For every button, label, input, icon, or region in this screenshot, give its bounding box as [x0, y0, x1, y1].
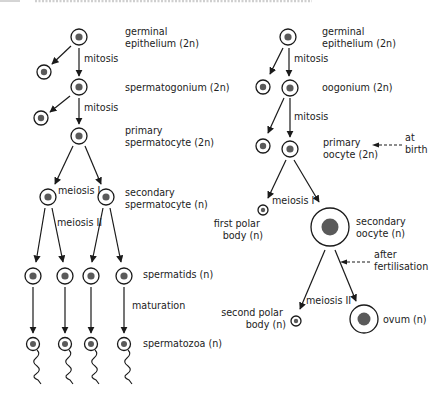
label-germinal-epithelium-male: germinal epithelium (2n) [125, 26, 199, 49]
label-after-fertilisation: after fertilisation [374, 249, 428, 272]
cell-daughter-female-1 [256, 80, 270, 94]
label-first-polar-body: first polar body (n) [214, 218, 263, 241]
label-germinal-epithelium-female: germinal epithelium (2n) [322, 26, 396, 49]
cell-spermatid-3 [83, 268, 99, 284]
spermatozoon-4 [118, 338, 133, 385]
cell-daughter-male-2 [34, 111, 48, 125]
label-spermatogonium: spermatogonium (2n) [125, 82, 229, 93]
gametogenesis-diagram: mitosis mitosis meiosis I meiosis II mat… [0, 0, 445, 403]
cell-spermatid-4 [116, 268, 132, 284]
process-maturation: maturation [132, 300, 185, 311]
process-meiosis-1-female: meiosis I [272, 195, 314, 206]
label-spermatozoa: spermatozoa (n) [143, 338, 222, 349]
process-meiosis-2-female: meiosis II [306, 295, 351, 306]
cell-oogonium [282, 80, 298, 96]
spermatozoon-2 [59, 338, 74, 385]
process-mitosis-female-2: mitosis [294, 111, 328, 122]
label-primary-spermatocyte: primary spermatocyte (2n) [125, 125, 214, 148]
label-spermatids: spermatids (n) [143, 269, 213, 280]
process-meiosis-2-male: meiosis II [57, 217, 102, 228]
label-at-birth: at birth [405, 132, 428, 155]
cell-daughter-female-2 [256, 139, 270, 153]
spermatozoon-3 [85, 338, 100, 385]
cell-first-polar-body [258, 205, 268, 215]
cell-secondary-spermatocyte-right [98, 189, 114, 205]
label-ovum: ovum (n) [383, 314, 427, 325]
process-mitosis-male-2: mitosis [84, 102, 118, 113]
label-second-polar-body: second polar body (n) [221, 307, 286, 330]
label-secondary-oocyte: secondary oocyte (n) [356, 216, 409, 239]
after-fertilisation-pointer [340, 260, 370, 265]
spermatozoon-1 [27, 338, 42, 385]
spermatogenesis-pathway: mitosis mitosis meiosis I meiosis II mat… [25, 26, 229, 384]
cell-daughter-male-1 [37, 65, 51, 79]
cell-germinal-epithelium-female [280, 29, 296, 45]
cell-secondary-spermatocyte-left [40, 189, 56, 205]
cell-second-polar-body [291, 316, 301, 326]
label-primary-oocyte: primary oocyte (2n) [323, 137, 378, 160]
process-mitosis-male-1: mitosis [84, 53, 118, 64]
at-birth-pointer [372, 143, 402, 148]
cell-germinal-epithelium-male [71, 29, 87, 45]
label-secondary-spermatocyte: secondary spermatocyte (n) [125, 187, 208, 210]
oogenesis-pathway: mitosis mitosis meiosis I meiosis II ger… [214, 26, 429, 333]
process-mitosis-female-1: mitosis [294, 53, 328, 64]
cell-spermatid-1 [25, 268, 41, 284]
cell-ovum [350, 305, 378, 333]
label-oogonium: oogonium (2n) [322, 82, 393, 93]
cell-primary-spermatocyte [71, 128, 87, 144]
cell-spermatogonium [71, 79, 87, 95]
cell-primary-oocyte [282, 141, 298, 157]
process-meiosis-1-male: meiosis I [58, 185, 100, 196]
cell-secondary-oocyte [311, 208, 349, 246]
cell-spermatid-2 [57, 268, 73, 284]
